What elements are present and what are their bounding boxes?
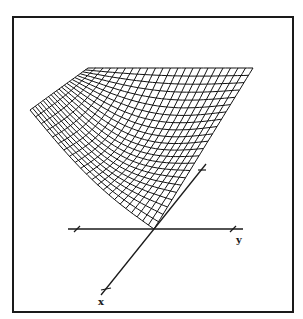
- x-axis: [101, 229, 154, 295]
- coordinate-axes: y x: [68, 164, 243, 307]
- figure-frame: [13, 17, 293, 312]
- y-axis-label: y: [235, 234, 243, 245]
- mesh-line: [43, 101, 176, 193]
- x-axis-label: x: [98, 296, 105, 307]
- mesh-line: [41, 102, 173, 199]
- axis-ticks: [74, 170, 236, 290]
- mesh-line: [67, 83, 217, 130]
- mesh-line: [148, 68, 245, 225]
- mesh-line: [85, 70, 248, 76]
- surface-mesh: [30, 68, 253, 229]
- surface-plot-figure: y x: [0, 0, 303, 319]
- mesh-line: [137, 68, 230, 217]
